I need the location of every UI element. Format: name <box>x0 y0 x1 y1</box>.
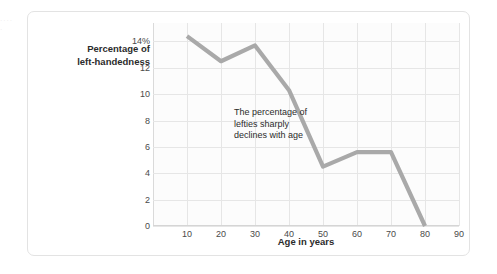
y-axis-tick-label: 2 <box>90 195 150 205</box>
grid-line-horizontal <box>153 226 459 227</box>
line-chart: Percentage of left-handedness 0246810121… <box>28 12 469 255</box>
annotation-line-2: lefties sharply <box>234 119 344 131</box>
y-axis-tick-label: 6 <box>90 142 150 152</box>
y-axis-tick-label: 14% <box>90 36 150 46</box>
y-axis-tick-label: 0 <box>90 221 150 231</box>
chart-annotation: The percentage of lefties sharply declin… <box>234 107 344 142</box>
y-axis-tick-label: 4 <box>90 168 150 178</box>
y-axis-tick-label: 12 <box>90 63 150 73</box>
x-axis-title: Age in years <box>153 236 459 247</box>
page-bleed-text: · · · · · <box>0 16 12 76</box>
annotation-line-1: The percentage of <box>234 107 344 119</box>
y-axis-tick-label: 8 <box>90 116 150 126</box>
grid-line-vertical <box>459 23 460 226</box>
y-axis-tick-label: 10 <box>90 89 150 99</box>
annotation-line-3: declines with age <box>234 130 344 142</box>
chart-card: Percentage of left-handedness 0246810121… <box>27 11 470 256</box>
